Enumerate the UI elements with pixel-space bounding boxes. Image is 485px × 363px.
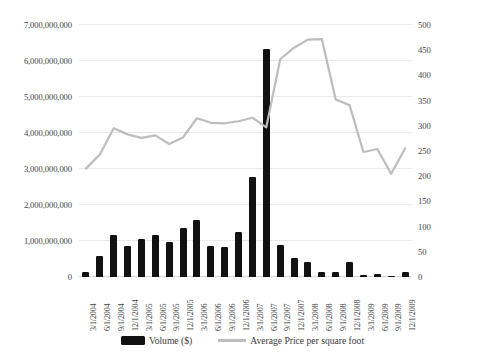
- x-tick-label: 9/1/2007: [283, 303, 292, 331]
- x-tick-label: 12/1/2008: [353, 300, 362, 331]
- legend-swatch-bar-icon: [121, 336, 145, 345]
- x-tick-label: 6/1/2009: [381, 303, 390, 331]
- y-tick-right: 50: [418, 247, 427, 257]
- y-tick-left: 2,000,000,000: [24, 200, 72, 210]
- y-tick-right: 400: [418, 70, 431, 80]
- plot-area: [79, 25, 412, 277]
- x-tick-label: 3/1/2005: [145, 303, 154, 331]
- chart-legend: Volume ($) Average Price per square foot: [0, 336, 485, 346]
- y-tick-left: 3,000,000,000: [24, 164, 72, 174]
- y-tick-left: 0: [68, 272, 72, 282]
- x-tick-label: 3/1/2008: [311, 303, 320, 331]
- x-tick-label: 9/1/2006: [228, 303, 237, 331]
- x-tick-label: 9/1/2004: [117, 303, 126, 331]
- y-tick-right: 150: [418, 196, 431, 206]
- y-tick-left: 6,000,000,000: [24, 56, 72, 66]
- y-tick-right: 200: [418, 171, 431, 181]
- x-tick-label: 12/1/2005: [186, 300, 195, 331]
- y-tick-right: 250: [418, 146, 431, 156]
- chart-container: 01,000,000,0002,000,000,0003,000,000,000…: [0, 0, 485, 363]
- legend-item-price: Average Price per square foot: [218, 336, 364, 346]
- x-tick-label: 9/1/2005: [172, 303, 181, 331]
- legend-swatch-line-icon: [218, 339, 246, 342]
- y-tick-left: 5,000,000,000: [24, 92, 72, 102]
- y-tick-right: 450: [418, 45, 431, 55]
- x-tick-label: 12/1/2006: [242, 300, 251, 331]
- y-tick-left: 4,000,000,000: [24, 128, 72, 138]
- x-axis-labels: 3/1/20046/1/20049/1/200412/1/20043/1/200…: [79, 279, 412, 335]
- x-tick-label: 3/1/2009: [367, 303, 376, 331]
- x-tick-label: 3/1/2004: [89, 303, 98, 331]
- x-tick-label: 6/1/2006: [214, 303, 223, 331]
- y-tick-left: 7,000,000,000: [24, 20, 72, 30]
- x-tick-label: 3/1/2006: [200, 303, 209, 331]
- x-tick-label: 3/1/2007: [256, 303, 265, 331]
- line-series-layer: [79, 25, 412, 277]
- x-tick-label: 12/1/2009: [408, 300, 417, 331]
- x-tick-label: 9/1/2009: [394, 303, 403, 331]
- legend-label-volume: Volume ($): [149, 336, 192, 346]
- y-tick-right: 0: [418, 272, 422, 282]
- x-tick-label: 12/1/2004: [131, 300, 140, 331]
- x-tick-label: 6/1/2008: [325, 303, 334, 331]
- legend-label-price: Average Price per square foot: [250, 336, 364, 346]
- y-tick-right: 500: [418, 20, 431, 30]
- x-tick-label: 6/1/2005: [159, 303, 168, 331]
- y-tick-right: 300: [418, 121, 431, 131]
- price-line-path: [86, 39, 405, 174]
- y-tick-left: 1,000,000,000: [24, 236, 72, 246]
- legend-item-volume: Volume ($): [121, 336, 192, 346]
- x-tick-label: 12/1/2007: [297, 300, 306, 331]
- price-line-svg: [79, 25, 412, 277]
- x-tick-label: 9/1/2008: [339, 303, 348, 331]
- x-tick-label: 6/1/2004: [103, 303, 112, 331]
- y-tick-right: 100: [418, 222, 431, 232]
- y-tick-right: 350: [418, 96, 431, 106]
- x-tick-label: 6/1/2007: [270, 303, 279, 331]
